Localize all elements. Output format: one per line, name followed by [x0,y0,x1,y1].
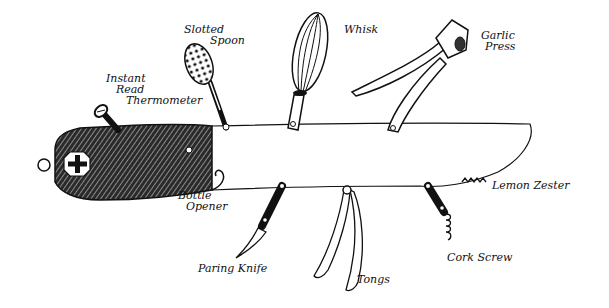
cork-screw-tool [426,184,451,240]
kitchen-knife-illustration: Instant Read Thermometer Slotted Spoon W… [0,0,609,308]
label-whisk: Whisk [344,24,378,35]
label-cork-screw: Cork Screw [447,252,512,263]
paring-knife-tool [236,184,284,258]
knife-body-outline [212,123,531,190]
label-garlic-press: Garlic Press [481,30,515,52]
bottle-opener-tool [212,170,224,190]
swiss-cross-icon [64,152,90,176]
label-paring-knife: Paring Knife [198,263,267,274]
label-tongs: Tongs [357,274,390,285]
label-instant-read-thermometer: Instant Read Thermometer [106,73,202,106]
label-bottle-opener: Bottle Opener [178,190,227,212]
label-slotted-spoon: Slotted Spoon [184,24,245,46]
garlic-press-tool [352,20,468,132]
tongs-tool [314,186,362,291]
label-lemon-zester: Lemon Zester [492,180,569,191]
thermometer-tool [92,103,118,130]
whisk-tool [286,10,334,130]
